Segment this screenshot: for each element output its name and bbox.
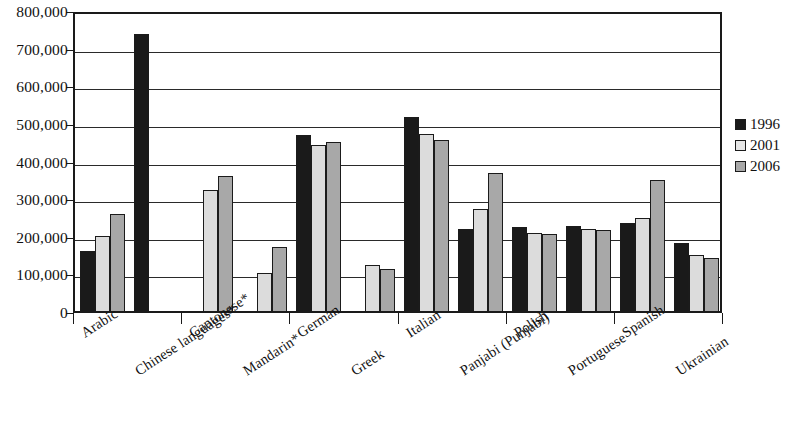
y-axis-tick-mark xyxy=(66,313,73,314)
bar-group xyxy=(670,14,724,311)
bar-1996 xyxy=(134,34,149,311)
y-axis-tick-label: 0 xyxy=(6,304,68,322)
bar-2001 xyxy=(311,145,326,311)
bar-2006 xyxy=(110,214,125,311)
bar-1996 xyxy=(458,229,473,311)
legend-label: 2006 xyxy=(750,159,780,174)
y-axis-tick-mark xyxy=(66,163,73,164)
bar-2001 xyxy=(635,218,650,311)
x-axis-tick-mark xyxy=(722,313,723,324)
bar-2006 xyxy=(326,142,341,311)
x-axis-tick-mark xyxy=(614,313,615,324)
bar-group xyxy=(237,14,291,311)
bar-1996 xyxy=(296,135,311,311)
bar-2001 xyxy=(581,229,596,311)
y-axis-tick-mark xyxy=(66,238,73,239)
legend-label: 2001 xyxy=(750,138,780,153)
y-axis-tick-label: 700,000 xyxy=(6,41,68,59)
y-axis-tick-mark xyxy=(66,125,73,126)
y-axis-tick-mark xyxy=(66,50,73,51)
bar-2001 xyxy=(257,273,272,311)
chart-legend: 199620012006 xyxy=(735,114,803,177)
legend-label: 1996 xyxy=(750,117,780,132)
legend-swatch-icon xyxy=(735,161,746,172)
legend-item: 2006 xyxy=(735,156,803,177)
x-axis-tick-mark xyxy=(181,313,182,324)
bar-2006 xyxy=(650,180,665,311)
y-axis-labels: 800,000700,000600,000500,000400,000300,0… xyxy=(0,0,68,443)
bar-1996 xyxy=(404,117,419,311)
bar-1996 xyxy=(566,226,581,311)
y-axis-tick-label: 600,000 xyxy=(6,78,68,96)
bar-2001 xyxy=(473,209,488,311)
x-axis-category-label: Portuguese xyxy=(565,329,629,379)
bar-group xyxy=(345,14,399,311)
bars-layer xyxy=(75,14,720,311)
bar-group xyxy=(400,14,454,311)
bar-2006 xyxy=(434,140,449,311)
x-axis-category-label: Mandarin* xyxy=(240,330,303,379)
legend-swatch-icon xyxy=(735,140,746,151)
x-axis-category-label: Greek xyxy=(348,345,387,379)
bar-2001 xyxy=(419,134,434,311)
bar-group xyxy=(616,14,670,311)
y-axis-tick-label: 400,000 xyxy=(6,154,68,172)
x-axis-tick-mark xyxy=(73,313,74,324)
bar-2006 xyxy=(218,176,233,311)
bar-1996 xyxy=(512,227,527,311)
bar-group xyxy=(75,14,129,311)
bar-2001 xyxy=(527,233,542,311)
bar-group xyxy=(562,14,616,311)
bar-2006 xyxy=(380,269,395,311)
y-axis-tick-label: 300,000 xyxy=(6,191,68,209)
x-axis-tick-mark xyxy=(506,313,507,324)
bar-1996 xyxy=(620,223,635,311)
bar-2001 xyxy=(203,190,218,311)
x-axis-tick-mark xyxy=(398,313,399,324)
y-axis-tick-label: 200,000 xyxy=(6,229,68,247)
y-axis-tick-label: 800,000 xyxy=(6,3,68,21)
bar-group xyxy=(183,14,237,311)
bar-chart: 800,000700,000600,000500,000400,000300,0… xyxy=(0,0,805,443)
y-axis-tick-mark xyxy=(66,200,73,201)
bar-2006 xyxy=(488,173,503,311)
legend-swatch-icon xyxy=(735,119,746,130)
y-axis-tick-mark xyxy=(66,275,73,276)
y-axis-tick-label: 500,000 xyxy=(6,116,68,134)
y-axis-tick-mark xyxy=(66,12,73,13)
y-axis-tick-mark xyxy=(66,87,73,88)
bar-2001 xyxy=(365,265,380,311)
bar-2001 xyxy=(95,236,110,311)
x-axis-category-label: Ukrainian xyxy=(673,333,732,379)
plot-area xyxy=(73,12,722,313)
bar-2006 xyxy=(704,258,719,311)
bar-1996 xyxy=(80,251,95,311)
bar-2006 xyxy=(272,247,287,311)
bar-1996 xyxy=(674,243,689,311)
bar-2006 xyxy=(542,234,557,311)
legend-item: 2001 xyxy=(735,135,803,156)
x-axis-tick-mark xyxy=(289,313,290,324)
bar-2001 xyxy=(689,255,704,311)
y-axis-tick-label: 100,000 xyxy=(6,266,68,284)
bar-group xyxy=(129,14,183,311)
legend-item: 1996 xyxy=(735,114,803,135)
bar-2006 xyxy=(596,230,611,311)
bar-group xyxy=(291,14,345,311)
bar-group xyxy=(454,14,508,311)
bar-group xyxy=(508,14,562,311)
